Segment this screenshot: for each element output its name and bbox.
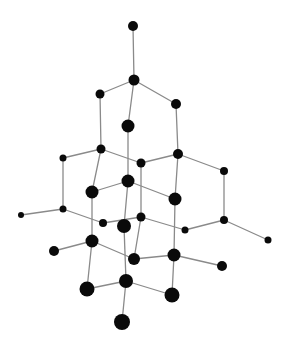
- atom-node: [80, 282, 95, 297]
- atom-node: [96, 90, 105, 99]
- bond-line: [141, 154, 178, 163]
- bond-line: [134, 80, 176, 104]
- atom-node: [99, 219, 107, 227]
- atom-node: [182, 227, 189, 234]
- bond-line: [133, 26, 134, 80]
- atom-node: [171, 99, 181, 109]
- atom-node: [60, 155, 67, 162]
- atom-node: [220, 216, 228, 224]
- atom-node: [137, 159, 146, 168]
- lattice-diagram: [0, 0, 288, 348]
- atom-node: [86, 186, 99, 199]
- atom-node: [165, 288, 180, 303]
- atom-node: [217, 261, 227, 271]
- bond-line: [134, 217, 141, 259]
- atom-node: [137, 213, 146, 222]
- bond-line: [92, 241, 134, 259]
- atom-node: [18, 212, 24, 218]
- bond-line: [128, 80, 134, 126]
- atom-node: [97, 145, 106, 154]
- bond-line: [176, 104, 178, 154]
- bond-line: [224, 220, 268, 240]
- bond-line: [100, 80, 134, 94]
- atom-node: [114, 314, 130, 330]
- atom-node: [129, 75, 140, 86]
- bond-line: [124, 226, 126, 281]
- atom-node: [265, 237, 272, 244]
- bond-line: [101, 149, 141, 163]
- atom-node: [122, 120, 135, 133]
- atom-group: [18, 21, 272, 330]
- atom-node: [168, 249, 181, 262]
- atom-node: [169, 193, 182, 206]
- bond-line: [92, 149, 101, 192]
- bond-line: [63, 209, 103, 223]
- bond-line: [174, 255, 222, 266]
- bond-line: [100, 94, 101, 149]
- bond-line: [128, 181, 175, 199]
- atom-node: [117, 219, 131, 233]
- bond-line: [178, 154, 224, 171]
- bond-line: [141, 217, 185, 230]
- atom-node: [119, 274, 133, 288]
- atom-node: [173, 149, 183, 159]
- bond-line: [21, 209, 63, 215]
- bond-line: [185, 220, 224, 230]
- atom-node: [128, 253, 140, 265]
- atom-node: [220, 167, 228, 175]
- atom-node: [49, 246, 59, 256]
- bond-group: [21, 26, 268, 322]
- atom-node: [122, 175, 135, 188]
- atom-node: [128, 21, 138, 31]
- bond-line: [63, 149, 101, 158]
- bond-line: [175, 154, 178, 199]
- diagram-canvas: Diamond cubic crystal lattice: [0, 0, 288, 348]
- atom-node: [60, 206, 67, 213]
- atom-node: [86, 235, 99, 248]
